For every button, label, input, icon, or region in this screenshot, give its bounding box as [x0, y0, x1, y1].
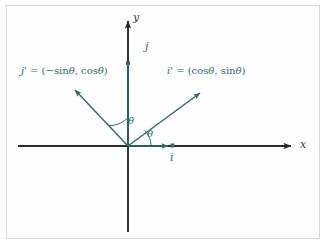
i-prime-cos: cos — [192, 65, 209, 76]
j-prime-equals: = (− — [27, 65, 54, 76]
angle-arc-y-to-j-prime — [109, 118, 128, 126]
vector-i-prime-label: i' = (cosθ, sinθ) — [167, 66, 245, 76]
j-prime-close: ) — [104, 65, 108, 76]
theta-label-x-to-i-prime: θ — [147, 129, 153, 139]
i-prime-sin: sin — [221, 65, 236, 76]
vector-rotation-figure: y x j i i' = (cosθ, sinθ) j' = (−sinθ, c… — [0, 0, 329, 249]
i-prime-close: ) — [242, 65, 246, 76]
vector-j-label: j — [145, 41, 148, 52]
vector-j-prime — [75, 90, 128, 146]
vector-i-prime — [128, 93, 200, 146]
vector-j-prime-label: j' = (−sinθ, cosθ) — [21, 66, 108, 76]
vector-i-label: i — [170, 152, 174, 163]
y-axis-label: y — [133, 12, 139, 23]
j-prime-sin: sin — [54, 65, 69, 76]
theta-label-y-to-j-prime: θ — [128, 116, 134, 126]
tick-j — [126, 61, 130, 65]
j-prime-cos: cos — [81, 65, 98, 76]
x-axis-label: x — [300, 139, 306, 150]
tick-i — [171, 144, 175, 148]
plot-canvas — [0, 0, 329, 249]
i-prime-equals: = ( — [173, 65, 192, 76]
